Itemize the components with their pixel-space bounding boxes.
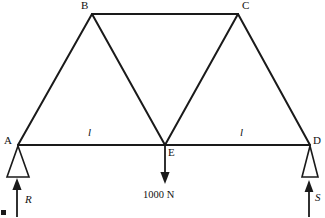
joint-label-E: E bbox=[168, 147, 175, 158]
truss-diagram bbox=[0, 0, 325, 218]
reaction-arrow-R bbox=[12, 178, 21, 217]
member-C-E bbox=[165, 14, 238, 145]
member-C-D bbox=[238, 14, 310, 145]
joint-label-C: C bbox=[242, 0, 249, 11]
joint-label-B: B bbox=[81, 0, 88, 11]
joint-label-A: A bbox=[4, 135, 12, 146]
support-A bbox=[7, 146, 29, 177]
reaction-label-R: R bbox=[25, 194, 32, 205]
scan-artifact-mark bbox=[1, 210, 6, 215]
support-D bbox=[302, 146, 318, 177]
joint-label-D: D bbox=[313, 135, 321, 146]
dimension-label-span-E-D: l bbox=[240, 127, 243, 138]
dimension-label-span-A-E: l bbox=[88, 127, 91, 138]
figure-canvas: A B C D E l l 1000 N R S bbox=[0, 0, 325, 218]
member-B-E bbox=[92, 14, 165, 145]
reaction-label-S: S bbox=[315, 192, 321, 203]
load-label-1000n: 1000 N bbox=[143, 189, 174, 200]
reaction-arrow-S bbox=[305, 180, 314, 217]
member-A-B bbox=[18, 14, 92, 145]
